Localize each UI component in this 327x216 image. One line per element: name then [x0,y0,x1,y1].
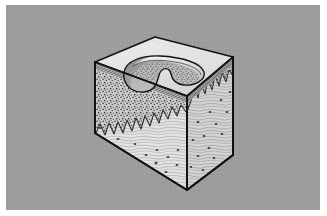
skin-cross-section-illustration: Skin cross-section block diagram with cr… [0,0,327,216]
figure-root: Three-dimensional cut-away block of skin… [0,0,327,216]
